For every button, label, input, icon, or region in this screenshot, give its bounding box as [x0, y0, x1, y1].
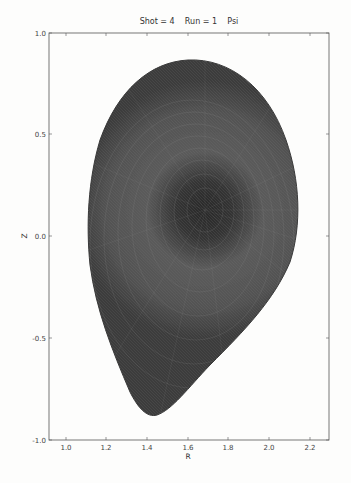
svg-text:2.0: 2.0: [263, 444, 274, 452]
plot-area: 1.0 1.2 1.4 1.6 1.8 2.0 2.2 1.0 0.5 0.0 …: [0, 0, 351, 483]
svg-text:0.5: 0.5: [35, 131, 46, 139]
svg-text:1.8: 1.8: [222, 444, 233, 452]
x-axis-label: R: [185, 452, 190, 461]
svg-text:1.4: 1.4: [141, 444, 153, 452]
y-axis-label: Z: [20, 233, 29, 238]
x-tick-labels: 1.0 1.2 1.4 1.6 1.8 2.0 2.2: [60, 444, 315, 452]
svg-text:2.2: 2.2: [304, 444, 315, 452]
svg-text:1.0: 1.0: [60, 444, 71, 452]
svg-text:-1.0: -1.0: [32, 437, 46, 445]
y-tick-labels: 1.0 0.5 0.0 -0.5 -1.0: [32, 30, 46, 445]
svg-text:-0.5: -0.5: [32, 335, 46, 343]
svg-text:1.6: 1.6: [182, 444, 194, 452]
svg-text:0.0: 0.0: [35, 233, 46, 241]
svg-text:1.2: 1.2: [100, 444, 111, 452]
figure: Shot = 4 Run = 1 Psi: [0, 0, 351, 483]
svg-text:1.0: 1.0: [35, 30, 46, 38]
